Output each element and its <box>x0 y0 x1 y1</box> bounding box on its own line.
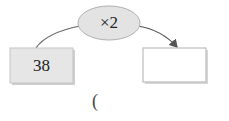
connector-arc-left <box>36 26 80 48</box>
input-value: 38 <box>10 55 73 77</box>
operator-label: ×2 <box>78 13 140 33</box>
output-box[interactable] <box>143 48 206 82</box>
answer-parenthesis: ( <box>88 90 102 112</box>
connector-arrow-right <box>138 26 177 47</box>
